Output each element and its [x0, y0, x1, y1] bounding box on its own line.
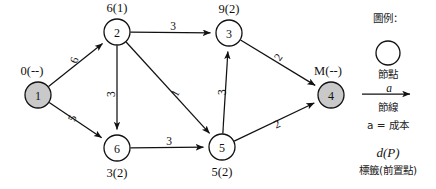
node-label-6: 3(2) — [107, 166, 128, 180]
node-label-2: 6(1) — [107, 1, 128, 15]
legend-node-caption: 節點 — [378, 68, 399, 80]
node-1[interactable]: 10(--) — [21, 64, 51, 108]
edge-1-to-2 — [49, 44, 103, 87]
node-2[interactable]: 26(1) — [104, 1, 130, 45]
edge-6-to-5 — [130, 147, 203, 148]
node-label-1: 0(--) — [21, 64, 44, 78]
legend-label-caption: 標籤(前置點) — [359, 164, 417, 176]
node-3[interactable]: 39(2) — [216, 2, 242, 46]
node-id-3: 3 — [226, 27, 232, 41]
node-5[interactable]: 55(2) — [209, 134, 235, 179]
node-id-1: 1 — [35, 89, 41, 103]
edge-cost-6-5: 3 — [166, 135, 172, 147]
edge-cost-5-3: 3 — [216, 89, 228, 95]
edge-cost-2-6: 3 — [105, 91, 117, 97]
edge-2-to-3 — [130, 32, 210, 33]
legend: 圖例： 節點 a 節線 a = 成本 d(P) 標籤(前置點) — [359, 12, 417, 176]
legend-label-notation: d(P) — [376, 145, 399, 160]
graph-canvas: 653313322 10(--)26(1)39(2)4M(--)55(2)63(… — [0, 0, 436, 189]
legend-arc-caption: 節線 — [378, 101, 399, 113]
edge-cost-labels-layer: 653313322 — [65, 20, 284, 147]
legend-arc-cost-letter: a — [386, 82, 392, 94]
node-label-3: 9(2) — [219, 2, 240, 16]
node-id-6: 6 — [114, 142, 120, 156]
node-id-5: 5 — [219, 141, 225, 155]
edges-layer — [49, 32, 316, 148]
edge-2-to-5 — [126, 42, 209, 133]
node-id-4: 4 — [328, 89, 334, 103]
nodes-layer: 10(--)26(1)39(2)4M(--)55(2)63(2) — [21, 1, 344, 180]
edge-cost-3-4: 2 — [271, 51, 284, 63]
edge-cost-1-6: 5 — [65, 113, 78, 123]
legend-node-symbol-icon — [376, 41, 400, 65]
legend-title: 圖例： — [373, 12, 403, 24]
node-label-4: M(--) — [314, 64, 342, 78]
legend-cost-definition: a = 成本 — [367, 119, 410, 131]
network-diagram-figure: 653313322 10(--)26(1)39(2)4M(--)55(2)63(… — [0, 0, 436, 189]
edge-cost-2-3: 3 — [170, 20, 176, 32]
node-id-2: 2 — [114, 26, 120, 40]
node-6[interactable]: 63(2) — [104, 135, 130, 180]
edge-3-to-4 — [241, 40, 316, 85]
edge-cost-1-2: 6 — [67, 55, 80, 64]
node-label-5: 5(2) — [212, 165, 233, 179]
edge-cost-2-5: 1 — [168, 87, 181, 98]
node-4[interactable]: 4M(--) — [314, 64, 344, 108]
